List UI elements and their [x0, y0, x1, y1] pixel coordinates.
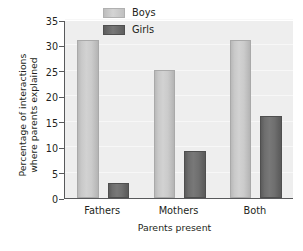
y-axis-tick-label: 25 — [28, 66, 58, 77]
y-axis-tick-mark — [59, 21, 64, 22]
legend-swatch-boys-icon — [103, 8, 125, 18]
y-axis-tick-label: 15 — [28, 117, 58, 128]
legend-item-boys[interactable]: Boys — [103, 7, 156, 18]
y-axis-tick-label: 0 — [28, 194, 58, 205]
gridline — [65, 19, 293, 20]
y-axis-tick-label: 5 — [28, 168, 58, 179]
bar-chart-figure: Percentage of interactions where parents… — [0, 0, 303, 251]
x-axis-label-mothers: Mothers — [159, 205, 199, 216]
y-axis-tick-mark — [59, 97, 64, 98]
legend-swatch-girls-icon — [103, 25, 125, 35]
x-axis-label-both: Both — [243, 205, 266, 216]
bar-fathers-girls[interactable] — [108, 183, 130, 198]
x-axis-label-fathers: Fathers — [84, 205, 120, 216]
gridline — [65, 146, 293, 147]
gridline — [65, 70, 293, 71]
y-axis-tick-label: 30 — [28, 41, 58, 52]
legend-item-girls[interactable]: Girls — [103, 24, 156, 35]
x-axis-title: Parents present — [0, 222, 303, 233]
bar-mothers-girls[interactable] — [184, 151, 206, 198]
bar-both-girls[interactable] — [260, 116, 282, 198]
gridline — [65, 172, 293, 173]
y-axis-tick-mark — [59, 199, 64, 200]
gridline — [65, 44, 293, 45]
plot-area — [64, 21, 293, 199]
y-axis-tick-label: 35 — [28, 16, 58, 27]
gridline — [65, 121, 293, 122]
gridline — [65, 95, 293, 96]
y-axis-tick-mark — [59, 122, 64, 123]
y-axis-tick-mark — [59, 71, 64, 72]
y-axis-tick-mark — [59, 148, 64, 149]
bar-mothers-boys[interactable] — [154, 70, 176, 198]
y-axis-tick-mark — [59, 173, 64, 174]
bar-fathers-boys[interactable] — [77, 40, 99, 198]
legend-label: Girls — [132, 24, 154, 35]
y-axis-tick-label: 20 — [28, 92, 58, 103]
y-axis-tick-mark — [59, 46, 64, 47]
y-axis-tick-label: 10 — [28, 143, 58, 154]
legend-label: Boys — [132, 7, 156, 18]
bar-both-boys[interactable] — [230, 40, 252, 198]
chart-legend: BoysGirls — [103, 7, 156, 35]
